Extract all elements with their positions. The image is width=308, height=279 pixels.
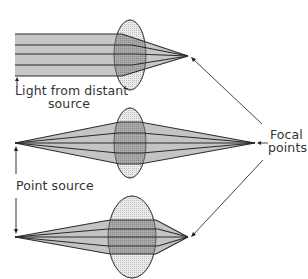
panel-point-source-thin: [15, 108, 255, 178]
label-focal-line2: points: [268, 141, 307, 154]
lens-diagram: [0, 0, 308, 279]
panel-point-source-thick: [15, 196, 188, 278]
label-point-source: Point source: [16, 179, 94, 192]
label-distant-source-line2: source: [48, 97, 90, 110]
panel-distant-source: [15, 20, 188, 90]
